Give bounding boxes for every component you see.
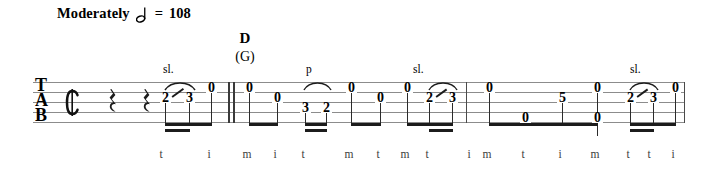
fingering-letter: i bbox=[463, 148, 475, 160]
tempo-bpm: 108 bbox=[169, 5, 191, 22]
time-signature-cut-common-icon bbox=[64, 89, 82, 116]
fret-number: 0 bbox=[206, 83, 217, 93]
fingering-letter: t bbox=[155, 148, 167, 160]
fingering-letter: m bbox=[481, 148, 493, 160]
tempo-word: Moderately bbox=[57, 5, 130, 22]
staff-line-1 bbox=[33, 82, 685, 83]
fret-number: 0 bbox=[272, 93, 283, 103]
beam-primary bbox=[630, 123, 676, 126]
fret-number: 2 bbox=[321, 103, 332, 113]
beam-primary bbox=[249, 123, 278, 126]
beam-primary bbox=[407, 123, 453, 126]
quarter-rest-2 bbox=[142, 88, 154, 114]
slur-arc-slide-1 bbox=[163, 78, 197, 96]
quarter-rest-1 bbox=[108, 88, 120, 114]
barline-double-left bbox=[228, 82, 230, 123]
fingering-letter: m bbox=[589, 148, 601, 160]
fingering-letter: i bbox=[667, 148, 679, 160]
fret-number: 0 bbox=[375, 93, 386, 103]
fingering-letter: m bbox=[343, 148, 355, 160]
fingering-letter: i bbox=[203, 148, 215, 160]
fingering-letter: i bbox=[554, 148, 566, 160]
fret-number: 0 bbox=[346, 83, 357, 93]
beam-primary bbox=[351, 123, 381, 126]
beam-secondary bbox=[165, 129, 190, 132]
banjo-tablature-sheet: Moderately = 108 T A B bbox=[0, 0, 718, 187]
technique-label-slide-3: sl. bbox=[630, 63, 641, 75]
tab-clef-letter-b: B bbox=[35, 108, 47, 122]
technique-label-slide-2: sl. bbox=[413, 63, 424, 75]
tab-clef: T A B bbox=[35, 78, 53, 126]
fingering-letter: i bbox=[269, 148, 281, 160]
barline-end bbox=[684, 82, 685, 123]
fingering-letter: t bbox=[297, 148, 309, 160]
fret-number: 0 bbox=[484, 83, 495, 93]
barline-double-right bbox=[233, 82, 235, 123]
chord-symbol-primary: D bbox=[236, 30, 254, 47]
fingering-letter: t bbox=[622, 148, 634, 160]
staff-line-3 bbox=[33, 102, 685, 103]
slur-arc-pulloff bbox=[302, 78, 333, 96]
beam-secondary bbox=[630, 129, 654, 132]
chord-symbol-alternate: (G) bbox=[232, 49, 258, 65]
slur-arc-slide-2 bbox=[427, 78, 459, 96]
fingering-letter: t bbox=[517, 148, 529, 160]
fret-number: 0 bbox=[592, 83, 603, 93]
fingering-letter: t bbox=[421, 148, 433, 160]
technique-label-slide-1: sl. bbox=[163, 63, 174, 75]
beam-primary bbox=[489, 123, 598, 126]
beam-primary bbox=[305, 123, 327, 126]
fingering-letter: t bbox=[643, 148, 655, 160]
fret-number: 5 bbox=[557, 93, 568, 103]
tempo-equals: = bbox=[155, 5, 163, 22]
fret-number: 0 bbox=[592, 113, 603, 123]
fret-number: 0 bbox=[670, 83, 681, 93]
tempo-marking: Moderately = 108 bbox=[57, 5, 191, 22]
half-note-icon bbox=[136, 7, 149, 23]
fret-number: 0 bbox=[402, 83, 413, 93]
slur-arc-slide-3 bbox=[628, 78, 660, 96]
staff-line-2 bbox=[33, 92, 685, 93]
fingering-letter: m bbox=[399, 148, 411, 160]
fret-number: 0 bbox=[244, 83, 255, 93]
beam-secondary bbox=[429, 129, 453, 132]
technique-label-pulloff: p bbox=[306, 63, 312, 75]
fingering-letter: m bbox=[241, 148, 253, 160]
beam-secondary bbox=[305, 129, 327, 132]
barline-measure-3 bbox=[466, 82, 467, 123]
fingering-letter: t bbox=[372, 148, 384, 160]
beam-primary bbox=[165, 123, 212, 126]
fret-number: 0 bbox=[520, 113, 531, 123]
staff-line-4 bbox=[33, 112, 685, 113]
fret-number: 3 bbox=[300, 103, 311, 113]
